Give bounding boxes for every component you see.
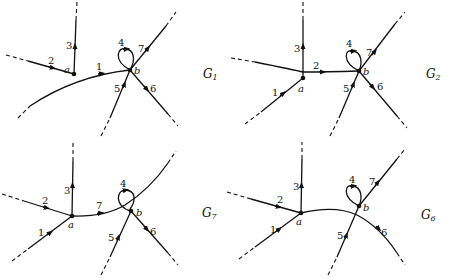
edge-label-4: 4 <box>118 37 124 48</box>
panel-g6: 3 2 1 4 7 5 6 a b G6 <box>227 142 436 275</box>
panel-title-g7: G7 <box>202 206 218 221</box>
edge-label-2: 2 <box>313 60 319 71</box>
edge-label-1: 1 <box>96 61 102 72</box>
edge-label-6: 6 <box>377 81 383 92</box>
edge-label-4: 4 <box>349 174 355 185</box>
vertex-label-a: a <box>64 64 70 75</box>
edge-label-4: 4 <box>346 38 352 49</box>
edge-label-2: 2 <box>277 194 283 205</box>
edge-label-3: 3 <box>66 40 72 51</box>
vertex-label-a: a <box>296 216 302 227</box>
vertex-label-a: a <box>68 219 74 230</box>
edge-label-7: 7 <box>96 200 102 211</box>
edge-label-1: 1 <box>270 224 276 235</box>
vertex-a <box>72 72 77 77</box>
vertex-label-b: b <box>134 65 140 76</box>
edge-label-5: 5 <box>108 232 114 243</box>
edge-label-1: 1 <box>272 87 278 98</box>
edge-label-7: 7 <box>369 176 375 187</box>
edge-label-3: 3 <box>294 43 300 54</box>
edge-5 <box>110 70 130 118</box>
edge-label-5: 5 <box>343 83 349 94</box>
edge-label-1: 1 <box>38 227 44 238</box>
panel-g2: 3 2 1 4 7 5 6 a b G2 <box>231 2 441 136</box>
edge-label-2: 2 <box>48 55 54 66</box>
edge-label-3: 3 <box>64 185 70 196</box>
panel-g1: 3 2 1 4 7 5 6 a b G1 <box>6 2 218 136</box>
panel-g7: 3 2 1 7 4 5 6 a b G7 <box>2 143 218 275</box>
edge-label-7: 7 <box>138 43 144 54</box>
edge-label-6: 6 <box>381 227 387 238</box>
vertex-label-b: b <box>363 66 369 77</box>
vertex-b <box>128 68 133 73</box>
vertex-label-b: b <box>363 202 369 213</box>
edge-label-6: 6 <box>150 226 156 237</box>
vertex-label-b: b <box>136 207 142 218</box>
graph-figure: 3 2 1 4 7 5 6 a b G1 <box>0 0 449 278</box>
edge-4-loop <box>118 49 133 70</box>
edge-6 <box>130 70 168 114</box>
panel-title-g2: G2 <box>426 67 441 82</box>
edge-label-7: 7 <box>366 47 372 58</box>
edge-label-2: 2 <box>42 195 48 206</box>
edge-label-4: 4 <box>120 178 126 189</box>
panel-title-g6: G6 <box>421 208 436 223</box>
vertex-label-a: a <box>298 83 304 94</box>
edge-label-5: 5 <box>114 83 120 94</box>
edge-label-3: 3 <box>293 181 299 192</box>
edge-label-6: 6 <box>150 83 156 94</box>
panel-title-g1: G1 <box>203 67 218 82</box>
edge-label-5: 5 <box>337 230 343 241</box>
